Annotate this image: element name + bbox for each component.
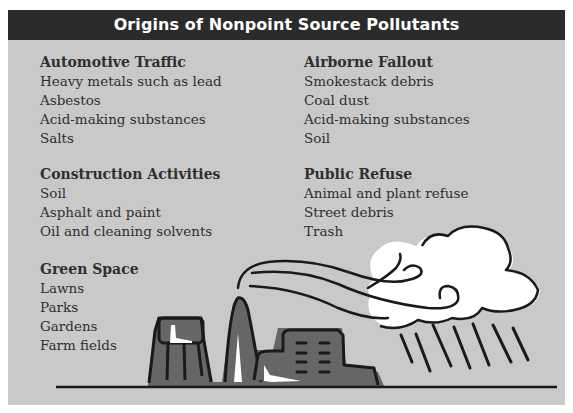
office-building-icon: [254, 330, 378, 385]
pollution-illustration: [8, 10, 565, 405]
cloud-icon: [368, 227, 540, 328]
infographic-panel: Origins of Nonpoint Source Pollutants Au…: [8, 10, 565, 405]
rain-icon: [401, 324, 528, 371]
